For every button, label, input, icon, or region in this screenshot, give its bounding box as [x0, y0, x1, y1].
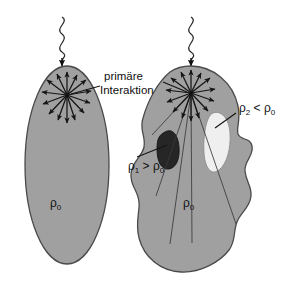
- primary-interaction-label-line2: Interaktion: [100, 84, 154, 96]
- low-density-label: ρ2 < ρ0: [239, 101, 276, 117]
- radiation-interaction-diagram: ρ0: [0, 0, 294, 292]
- high-density-label: ρ1 > ρ0: [128, 159, 165, 175]
- primary-interaction-label-line1: primäre: [104, 70, 143, 82]
